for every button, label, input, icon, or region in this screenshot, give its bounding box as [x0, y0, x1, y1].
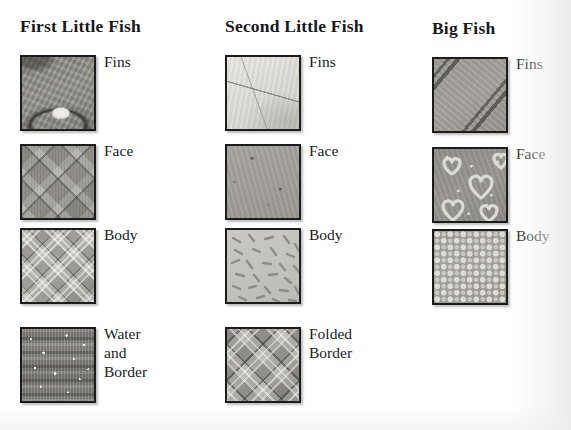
- fabric-texture-pale-crease-line: [227, 57, 299, 129]
- swatch-label: Water and Border: [104, 324, 147, 381]
- fabric-swatch[interactable]: [225, 55, 301, 131]
- swatch-label: Body: [516, 226, 550, 245]
- swatch-label: Fins: [104, 52, 131, 71]
- swatch-row: Body: [432, 229, 508, 305]
- swatch-row: Water and Border: [20, 327, 96, 403]
- fabric-swatch[interactable]: [20, 55, 96, 131]
- column-title: First Little Fish: [20, 16, 141, 37]
- heart-shapes-icon: [434, 149, 508, 223]
- column-title: Second Little Fish: [225, 16, 364, 37]
- fabric-swatch[interactable]: [20, 327, 96, 403]
- swatch-row: Face: [432, 147, 508, 223]
- column-title: Big Fish: [432, 18, 495, 39]
- swatch-label: Fins: [516, 54, 543, 73]
- fabric-swatch[interactable]: [432, 147, 508, 223]
- swatch-row: Face: [225, 144, 301, 220]
- swatch-label: Face: [104, 141, 133, 160]
- swatch-row: Folded Border: [225, 327, 301, 403]
- swatch-label: Folded Border: [309, 324, 352, 362]
- dash-marks-icon: [227, 230, 301, 304]
- fabric-texture-diagonal-tartan-plaid: [227, 329, 299, 401]
- page-scan-shadow-bottom: [0, 404, 571, 430]
- fabric-swatch[interactable]: [225, 228, 301, 304]
- swatch-row: Fins: [432, 57, 508, 133]
- fabric-texture-wide-diagonal-bands: [434, 59, 506, 131]
- fabric-texture-large-diamond-plaid: [22, 146, 94, 218]
- fabric-texture-outlined-hearts-and-dots: [434, 149, 506, 221]
- fabric-swatch[interactable]: [225, 327, 301, 403]
- fabric-swatch[interactable]: [20, 228, 96, 304]
- fabric-swatch[interactable]: [432, 57, 508, 133]
- fabric-swatch[interactable]: [432, 229, 508, 305]
- fabric-texture-dense-polka-dots: [434, 231, 506, 303]
- swatch-label: Body: [309, 225, 343, 244]
- swatch-label: Face: [516, 144, 545, 163]
- fabric-texture-scattered-dashes: [227, 230, 299, 302]
- swatch-label: Body: [104, 225, 138, 244]
- swatch-row: Body: [20, 228, 96, 304]
- fabric-swatch[interactable]: [20, 144, 96, 220]
- fabric-swatch[interactable]: [225, 144, 301, 220]
- swatch-row: Body: [225, 228, 301, 304]
- swatch-label: Fins: [309, 52, 336, 71]
- swatch-row: Fins: [225, 55, 301, 131]
- fabric-texture-mottled-grey-with-oval-highlight: [22, 57, 94, 129]
- fabric-texture-flat-grey-flecks: [227, 146, 299, 218]
- fabric-texture-horizontal-ribbed-speckle: [22, 329, 94, 401]
- fabric-texture-fine-diagonal-tartan: [22, 230, 94, 302]
- swatch-row: Fins: [20, 55, 96, 131]
- swatch-label: Face: [309, 141, 338, 160]
- swatch-row: Face: [20, 144, 96, 220]
